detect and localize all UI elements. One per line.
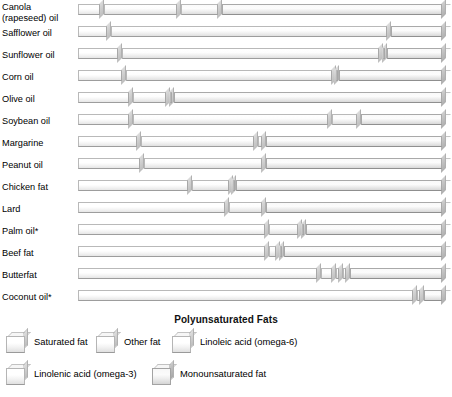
stacked-bar bbox=[78, 48, 446, 63]
stacked-bar bbox=[78, 92, 446, 107]
bar-segment-sat bbox=[78, 48, 122, 63]
bar-segment-mono bbox=[387, 48, 446, 63]
chart-row: Soybean oil bbox=[0, 112, 452, 134]
bar-segment-lin3 bbox=[332, 114, 361, 129]
stacked-bar bbox=[78, 268, 446, 283]
category-label: Olive oil bbox=[2, 94, 76, 105]
chart-row: Olive oil bbox=[0, 90, 452, 112]
legend-item-lin6: Linoleic acid (omega-6) bbox=[172, 332, 297, 351]
category-label: Canola (rapeseed) oil bbox=[2, 2, 76, 23]
category-label: Butterfat bbox=[2, 270, 76, 281]
bar-segment-mono bbox=[339, 70, 446, 85]
stacked-bar-chart: Canola (rapeseed) oilSafflower oilSunflo… bbox=[0, 0, 452, 312]
legend-swatch-sat-icon bbox=[6, 332, 28, 351]
chart-row: Canola (rapeseed) oil bbox=[0, 2, 452, 24]
bar-segment-lin6 bbox=[336, 268, 343, 283]
category-label: Lard bbox=[2, 204, 76, 215]
bar-segment-sat bbox=[78, 26, 111, 41]
chart-row: Lard bbox=[0, 200, 452, 222]
legend-item-other: Other fat bbox=[96, 332, 160, 351]
bar-segment-mono bbox=[284, 246, 446, 261]
bar-segment-sat bbox=[78, 70, 126, 85]
bar-segment-mono bbox=[236, 180, 446, 195]
bar-segment-lin3 bbox=[258, 136, 265, 151]
category-label: Peanut oil bbox=[2, 160, 76, 171]
stacked-bar bbox=[78, 224, 446, 239]
bar-segment-sat bbox=[78, 224, 269, 239]
stacked-bar bbox=[78, 158, 446, 173]
stacked-bar bbox=[78, 136, 446, 151]
legend-item-lin3: Linolenic acid (omega-3) bbox=[6, 364, 137, 383]
chart-legend: Saturated fatOther fatLinoleic acid (ome… bbox=[0, 332, 452, 396]
category-label: Margarine bbox=[2, 138, 76, 149]
legend-item-mono: Monounsaturated fat bbox=[152, 364, 266, 383]
bar-segment-lin6 bbox=[192, 180, 232, 195]
legend-label: Monounsaturated fat bbox=[180, 368, 266, 379]
legend-swatch-lin6-icon bbox=[172, 332, 194, 351]
chart-row: Peanut oil bbox=[0, 156, 452, 178]
chart-row: Corn oil bbox=[0, 68, 452, 90]
category-label: Soybean oil bbox=[2, 116, 76, 127]
category-label: Chicken fat bbox=[2, 182, 76, 193]
legend-label: Linolenic acid (omega-3) bbox=[34, 368, 137, 379]
chart-row: Palm oil* bbox=[0, 222, 452, 244]
category-label: Safflower oil bbox=[2, 28, 76, 39]
bar-segment-lin6 bbox=[133, 114, 332, 129]
bar-segment-mono bbox=[350, 268, 446, 283]
stacked-bar bbox=[78, 4, 446, 19]
bar-segment-mono bbox=[391, 26, 446, 41]
polyunsaturated-fats-label: Polyunsaturated Fats bbox=[0, 314, 452, 325]
chart-row: Beef fat bbox=[0, 244, 452, 266]
legend-label: Other fat bbox=[124, 336, 160, 347]
category-label: Corn oil bbox=[2, 72, 76, 83]
category-label: Beef fat bbox=[2, 248, 76, 259]
bar-segment-lin6 bbox=[133, 92, 170, 107]
category-label: Coconut oil* bbox=[2, 292, 76, 303]
bar-segment-mono bbox=[266, 158, 446, 173]
legend-row: Saturated fatOther fatLinoleic acid (ome… bbox=[0, 332, 452, 364]
bar-segment-sat bbox=[78, 246, 269, 261]
bar-segment-mono bbox=[174, 92, 446, 107]
bar-segment-sat bbox=[78, 4, 104, 19]
bar-segment-lin6 bbox=[126, 70, 336, 85]
legend-row: Linolenic acid (omega-3)Monounsaturated … bbox=[0, 364, 452, 396]
bar-segment-sat bbox=[78, 180, 192, 195]
stacked-bar bbox=[78, 202, 446, 217]
category-label: Sunflower oil bbox=[2, 50, 76, 61]
bar-segment-sat bbox=[78, 136, 141, 151]
stacked-bar bbox=[78, 246, 446, 261]
bar-segment-lin6 bbox=[104, 4, 181, 19]
bar-segment-mono bbox=[424, 290, 446, 305]
category-label: Palm oil* bbox=[2, 226, 76, 237]
bar-segment-lin6 bbox=[417, 290, 424, 305]
chart-row: Butterfat bbox=[0, 266, 452, 288]
bar-segment-lin3 bbox=[343, 268, 350, 283]
stacked-bar bbox=[78, 114, 446, 129]
bar-segment-sat bbox=[78, 290, 417, 305]
bar-segment-lin3 bbox=[181, 4, 221, 19]
chart-row: Coconut oil* bbox=[0, 288, 452, 310]
bar-segment-lin6 bbox=[229, 202, 266, 217]
chart-row: Chicken fat bbox=[0, 178, 452, 200]
legend-item-sat: Saturated fat bbox=[6, 332, 88, 351]
chart-row: Safflower oil bbox=[0, 24, 452, 46]
legend-label: Linoleic acid (omega-6) bbox=[200, 336, 297, 347]
bar-segment-sat bbox=[78, 268, 321, 283]
chart-row: Margarine bbox=[0, 134, 452, 156]
bar-segment-lin6 bbox=[111, 26, 391, 41]
bar-segment-lin6 bbox=[122, 48, 383, 63]
stacked-bar bbox=[78, 290, 446, 305]
bar-segment-mono bbox=[222, 4, 446, 19]
bar-segment-mono bbox=[266, 202, 446, 217]
legend-label: Saturated fat bbox=[34, 336, 88, 347]
legend-swatch-lin3-icon bbox=[6, 364, 28, 383]
bar-segment-sat bbox=[78, 158, 144, 173]
bar-segment-sat bbox=[78, 92, 133, 107]
bar-segment-mono bbox=[306, 224, 446, 239]
bar-segment-sat bbox=[78, 202, 229, 217]
bar-segment-mono bbox=[361, 114, 446, 129]
legend-swatch-mono-icon bbox=[152, 364, 174, 383]
bar-segment-sat bbox=[78, 114, 133, 129]
chart-row: Sunflower oil bbox=[0, 46, 452, 68]
bar-segment-lin6 bbox=[141, 136, 259, 151]
